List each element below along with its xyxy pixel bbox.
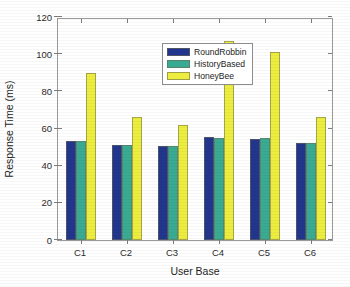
legend-label: RoundRobbin <box>194 48 247 57</box>
bar-group <box>112 19 142 240</box>
legend-label: HoneyBee <box>194 72 234 81</box>
bar-roundrobbin-c5 <box>250 139 260 240</box>
y-axis-tick-right <box>328 239 332 240</box>
x-axis-tick-label: C2 <box>120 248 132 258</box>
y-axis-tick-right <box>328 90 332 91</box>
y-axis-tick-right <box>328 202 332 203</box>
x-axis-tick <box>311 240 312 244</box>
bar-group <box>250 19 280 240</box>
y-axis-tick-inner <box>58 90 62 91</box>
x-axis-tick <box>219 240 220 244</box>
y-axis-title: Response Time (ms) <box>4 81 15 178</box>
y-axis-tick-right <box>328 53 332 54</box>
y-axis-tick-label: 20 <box>41 198 52 208</box>
y-axis-tick-label: 120 <box>36 12 52 22</box>
y-axis-tick-label: 40 <box>41 161 52 171</box>
bar-honeybee-c5 <box>270 52 280 240</box>
bar-honeybee-c2 <box>132 117 142 240</box>
y-axis-tick-inner <box>58 16 62 17</box>
legend-item: HistoryBased <box>167 59 247 69</box>
bar-roundrobbin-c3 <box>158 146 168 240</box>
bar-honeybee-c3 <box>178 125 188 240</box>
chart-legend: RoundRobbinHistoryBasedHoneyBee <box>162 43 253 85</box>
y-axis-tick-inner <box>58 53 62 54</box>
y-axis-tick-label: 80 <box>41 87 52 97</box>
bar-historybased-c6 <box>306 143 316 240</box>
y-axis-tick-label: 0 <box>47 235 52 245</box>
x-axis-tick-label: C1 <box>74 248 86 258</box>
y-axis-tick-right <box>328 165 332 166</box>
bar-roundrobbin-c4 <box>204 137 214 240</box>
bar-roundrobbin-c2 <box>112 145 122 240</box>
bar-roundrobbin-c1 <box>66 141 76 240</box>
plot-frame: 020406080100120 RoundRobbinHistoryBasedH… <box>57 18 333 241</box>
bar-roundrobbin-c6 <box>296 143 306 240</box>
x-axis-tick-label: C5 <box>258 248 270 258</box>
bar-historybased-c1 <box>76 141 86 240</box>
x-axis-tick <box>265 240 266 244</box>
x-axis-tick <box>173 240 174 244</box>
x-axis-tick-label: C4 <box>212 248 224 258</box>
y-axis-tick-right <box>328 128 332 129</box>
legend-swatch-icon <box>167 60 190 68</box>
y-axis-tick-inner <box>58 128 62 129</box>
legend-item: RoundRobbin <box>167 47 247 57</box>
x-axis-tick-label: C6 <box>304 248 316 258</box>
x-axis-tick <box>81 240 82 244</box>
bar-historybased-c5 <box>260 138 270 240</box>
bar-historybased-c3 <box>168 146 178 240</box>
y-axis-tick-right <box>328 16 332 17</box>
bar-group <box>296 19 326 240</box>
y-axis-tick-inner <box>58 202 62 203</box>
bar-honeybee-c1 <box>86 73 96 240</box>
x-axis-tick-label: C3 <box>166 248 178 258</box>
legend-swatch-icon <box>167 72 190 80</box>
y-axis-tick-inner <box>58 239 62 240</box>
bar-chart-figure: Response Time (ms) 020406080100120 Round… <box>0 0 350 287</box>
legend-swatch-icon <box>167 48 190 56</box>
y-axis-tick-inner <box>58 165 62 166</box>
bar-historybased-c4 <box>214 138 224 240</box>
legend-label: HistoryBased <box>194 60 245 69</box>
bar-historybased-c2 <box>122 145 132 240</box>
bar-group <box>66 19 96 240</box>
bar-honeybee-c6 <box>316 117 326 240</box>
y-axis-tick-label: 60 <box>41 124 52 134</box>
x-axis-tick <box>127 240 128 244</box>
x-axis-title: User Base <box>57 266 333 277</box>
legend-item: HoneyBee <box>167 71 247 81</box>
y-axis-tick-label: 100 <box>36 49 52 59</box>
